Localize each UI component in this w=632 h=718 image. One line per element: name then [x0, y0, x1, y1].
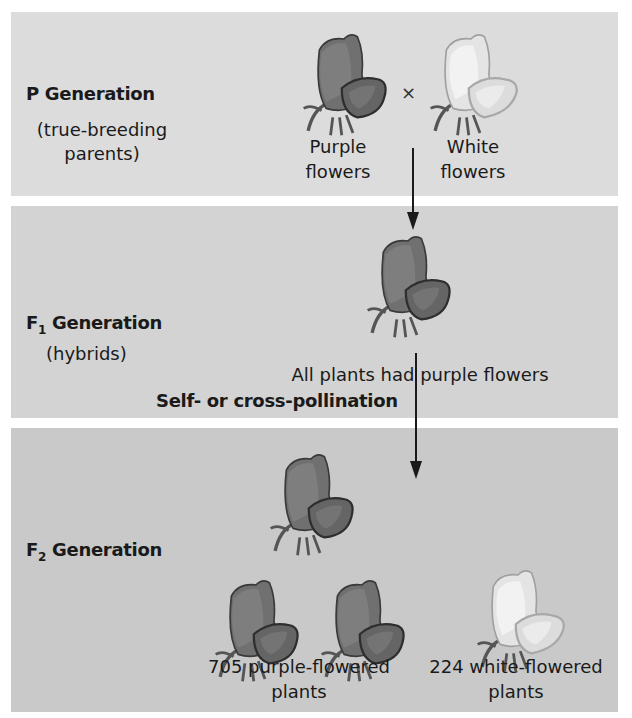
f2-generation-title: F2 Generation [26, 539, 162, 564]
white-flower-icon [415, 30, 527, 142]
f2-purple-count-label: 705 purple-flowered plants [196, 654, 402, 704]
white-flowers-label: White flowers [430, 134, 516, 184]
purple-flower-icon [288, 30, 400, 142]
cross-symbol: × [401, 82, 416, 103]
f1-generation-title: F1 Generation [26, 312, 162, 337]
pollination-label: Self- or cross-pollination [156, 390, 398, 411]
arrow-f1-to-f2-line [415, 353, 417, 465]
arrow-down-icon [410, 461, 422, 479]
arrow-p-to-f1-line [412, 148, 414, 216]
p-generation-title: P Generation [26, 83, 155, 104]
f1-caption: All plants had purple flowers [270, 362, 570, 387]
purple-flowers-label: Purple flowers [300, 134, 376, 184]
f1-purple-flower-icon [352, 232, 464, 344]
p-generation-subtitle: (true-breeding parents) [22, 118, 182, 166]
f1-generation-subtitle: (hybrids) [46, 342, 127, 366]
f2-purple-flower-icon-1 [255, 450, 367, 562]
f2-white-count-label: 224 white-flowered plants [418, 654, 614, 704]
arrow-down-icon [407, 212, 419, 230]
